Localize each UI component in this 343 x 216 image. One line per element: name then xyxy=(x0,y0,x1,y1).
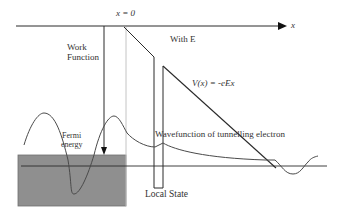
wavefunction-label: Wavefunction of tunnelling electron xyxy=(155,130,285,139)
tunnelling-diagram xyxy=(0,0,343,216)
work-function-label-line1: Work xyxy=(67,43,87,52)
potential-label: V(x) = -eEx xyxy=(192,79,235,88)
barrier-slope-1 xyxy=(124,27,154,57)
local-state-label: Local State xyxy=(145,190,188,200)
work-function-arrowhead-icon xyxy=(101,147,107,155)
x-zero-label: x = 0 xyxy=(116,9,135,18)
metal-block xyxy=(18,155,126,206)
x-axis-arrowhead-icon xyxy=(278,22,287,30)
fermi-label-line1: Fermi xyxy=(62,132,81,140)
work-function-label-line2: Function xyxy=(67,53,99,62)
fermi-label-line2: energy xyxy=(61,141,83,149)
x-axis-label: x xyxy=(291,21,295,30)
with-e-label: With E xyxy=(170,35,195,44)
